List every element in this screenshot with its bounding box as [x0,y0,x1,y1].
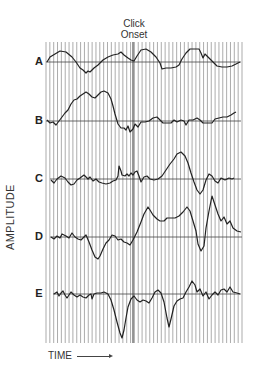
x-axis-label: TIME [48,350,72,361]
y-axis-label: AMPLITUDE [4,184,16,250]
trace-label-a: A [34,55,44,67]
trace-label-b: B [34,114,44,126]
trace-c [51,152,234,194]
title-onset: Onset [110,29,158,40]
trace-label-c: C [34,172,44,184]
time-arrow-icon [77,356,111,357]
title-click: Click [110,18,158,29]
waveform-traces [47,49,241,338]
trace-label-d: D [34,230,44,242]
trace-e [54,281,240,338]
vertical-grid-lines [46,42,242,343]
trace-label-e: E [34,287,44,299]
